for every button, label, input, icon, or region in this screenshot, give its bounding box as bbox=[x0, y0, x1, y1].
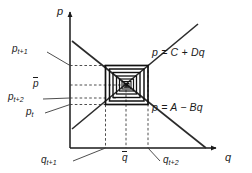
tick-label-q-bar: q bbox=[122, 153, 128, 163]
tick-sub-p-t-plus-2: t+2 bbox=[14, 96, 24, 103]
tick-sub-p-t: t bbox=[32, 111, 34, 118]
leader-q-t-plus-2 bbox=[148, 148, 160, 161]
tick-label-p-t-plus-1: pt+1 bbox=[12, 44, 28, 54]
cobweb-diagram-figure: p q p = C + Dq p = A − Bq pt+1 p pt+2 pt… bbox=[0, 0, 252, 173]
tick-base-p-bar: p bbox=[33, 79, 39, 89]
axes-group bbox=[70, 12, 216, 148]
q-axis-label: q bbox=[225, 152, 231, 163]
equilibrium-point bbox=[126, 85, 128, 87]
tick-label-p-t-plus-2: pt+2 bbox=[8, 92, 24, 102]
p-axis-label: p bbox=[57, 6, 63, 17]
tick-label-p-bar: p bbox=[33, 79, 39, 89]
tick-base-p-t-plus-1: p bbox=[12, 43, 18, 54]
demand-curve-equation-label: p = A − Bq bbox=[152, 102, 203, 113]
tick-label-q-t-plus-1: qt+1 bbox=[41, 155, 57, 165]
tick-sub-q-t-plus-2: t+2 bbox=[169, 159, 179, 166]
tick-label-p-t: pt bbox=[26, 107, 34, 117]
tick-base-q-bar: q bbox=[122, 153, 128, 163]
tick-base-q-t-plus-2: q bbox=[163, 154, 169, 165]
tick-base-q-t-plus-1: q bbox=[41, 154, 47, 165]
tick-sub-p-t-plus-1: t+1 bbox=[18, 48, 28, 55]
tick-base-p-t: p bbox=[26, 106, 32, 117]
leader-p-t-plus-1 bbox=[47, 52, 70, 66]
quantity-projection-lines bbox=[106, 66, 149, 149]
supply-curve-equation-label: p = C + Dq bbox=[152, 47, 205, 58]
tick-base-p-t-plus-2: p bbox=[8, 91, 14, 102]
tick-label-q-t-plus-2: qt+2 bbox=[163, 155, 179, 165]
tick-sub-q-t-plus-1: t+1 bbox=[47, 159, 57, 166]
leader-q-t-plus-1 bbox=[73, 148, 106, 161]
leader-p-t bbox=[45, 105, 70, 114]
leader-p-t-plus-2 bbox=[43, 98, 70, 99]
